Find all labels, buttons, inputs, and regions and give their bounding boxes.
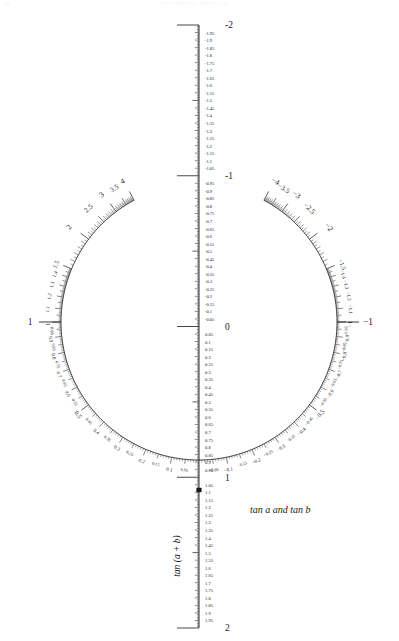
arc-tick: [110, 430, 113, 434]
vertical-tick-label: 1.65: [205, 573, 214, 578]
arc-tick: [66, 276, 68, 277]
arc-tick: [268, 441, 269, 443]
arc-tick: [63, 265, 71, 268]
arc-tick: [314, 245, 317, 247]
arc-tick: [124, 439, 125, 441]
arc-tick: [322, 385, 324, 386]
arc-caption: tan a and tan b: [250, 504, 311, 515]
arc-tick-label: 0.95: [49, 327, 54, 335]
arc-tick-label: 0.7: [56, 371, 63, 379]
arc-tick: [273, 439, 274, 441]
vertical-tick-label: 0.6: [205, 415, 211, 420]
arc-tick: [143, 448, 144, 450]
arc-tick: [103, 219, 105, 221]
arc-tick: [313, 399, 315, 400]
vertical-tick-label: -0.95: [205, 181, 215, 186]
arc-tick: [336, 308, 342, 309]
arc-tick: [336, 302, 341, 303]
arc-tick: [55, 308, 61, 309]
vertical-tick-label: 1: [225, 473, 230, 483]
arc-tick: [135, 445, 136, 447]
arc-tick: [128, 441, 129, 443]
arc-tick-label: 0.15: [152, 461, 161, 468]
arc-tick: [303, 228, 307, 231]
arc-tick: [89, 408, 91, 410]
arc-tick-label: −0.7: [335, 369, 343, 380]
arc-tick: [94, 224, 98, 227]
arc-tick-label: −0.3: [276, 443, 287, 452]
arc-tick-label: 0.55: [71, 398, 79, 407]
arc-tick: [98, 216, 104, 222]
arc-tick: [285, 430, 288, 434]
arc-tick: [328, 271, 330, 272]
arc-tick: [289, 427, 291, 429]
arc-tick: [67, 274, 69, 275]
arc-tick: [279, 207, 281, 209]
arc-tick: [81, 241, 85, 244]
arc-tick-label: 1.2: [46, 292, 52, 300]
caption-group: tan (a + b)tan a and tan b: [172, 504, 311, 577]
arc-tick: [79, 394, 81, 395]
arc-tick: [325, 264, 328, 265]
vertical-tick-label: 0.55: [205, 407, 214, 412]
arc-tick: [132, 444, 134, 448]
arc-tick: [106, 216, 108, 218]
arc-tick: [58, 344, 63, 345]
arc-tick: [62, 275, 68, 277]
vertical-tick-label: -1.55: [205, 91, 215, 96]
arc-tick-label: 0.9: [48, 336, 54, 343]
arc-tick-label: −0.6: [326, 388, 335, 399]
arc-tick: [58, 352, 64, 353]
vertical-tick-label: 1.5: [205, 551, 211, 556]
vertical-tick-label: 1.9: [205, 611, 211, 616]
arc-tick: [68, 371, 70, 372]
vertical-tick-label: 2: [225, 623, 230, 633]
arc-tick: [122, 202, 125, 206]
arc-tick-label: 0.75: [54, 360, 61, 369]
arc-tick-label: 3: [97, 190, 106, 200]
vertical-tick-label: -0.25: [205, 287, 215, 292]
arc-tick: [245, 452, 246, 454]
arc-tick: [327, 270, 329, 271]
arc-tick-label: −0.05: [208, 467, 218, 473]
arc-tick-label: 1.3: [49, 281, 56, 289]
arc-tick: [275, 437, 279, 442]
arc-tick: [309, 233, 317, 239]
arc-tick-label: 0.8: [51, 353, 57, 361]
arc-tick-label: 3.5: [109, 183, 121, 195]
left-arc-group: 0.050.10.150.20.250.30.350.40.450.50.550…: [28, 176, 199, 473]
arc-tick: [329, 275, 331, 276]
arc-tick: [326, 265, 334, 268]
vertical-tick-label: 1.6: [205, 566, 211, 571]
arc-tick: [308, 235, 310, 237]
vertical-tick-label: 0.65: [205, 422, 214, 427]
arc-tick-label: 4: [119, 176, 127, 186]
vertical-tick-label: 1.1: [205, 490, 211, 495]
vertical-tick-label: 0.25: [205, 362, 214, 367]
arc-tick: [76, 389, 78, 390]
arc-tick: [296, 221, 298, 223]
vertical-tick-label: 1.25: [205, 513, 214, 518]
arc-tick-label: 0.45: [85, 417, 94, 426]
arc-tick: [78, 250, 81, 252]
arc-tick-label: 0.85: [51, 343, 57, 351]
arc-tick: [131, 443, 132, 445]
arc-tick: [329, 276, 331, 277]
arc-tick-label: −0.4: [297, 426, 307, 436]
arc-tick: [118, 204, 121, 208]
vertical-tick-label: -0.4: [205, 264, 213, 269]
arc-tick: [250, 450, 251, 452]
arc-tick: [314, 398, 316, 399]
arc-tick-label: −0.5: [313, 408, 325, 421]
arc-tick: [301, 415, 303, 417]
arc-tick: [140, 447, 141, 449]
arc-tick: [323, 259, 327, 261]
vertical-tick-label: 1.4: [205, 536, 211, 541]
vertical-tick-label: 1.8: [205, 596, 211, 601]
vertical-tick-label: -1.7: [205, 68, 213, 73]
arc-tick: [69, 270, 71, 271]
arc-tick: [97, 417, 99, 419]
arc-tick: [69, 374, 71, 375]
arc-tick: [313, 241, 317, 244]
vertical-tick-label: -0.55: [205, 242, 215, 247]
